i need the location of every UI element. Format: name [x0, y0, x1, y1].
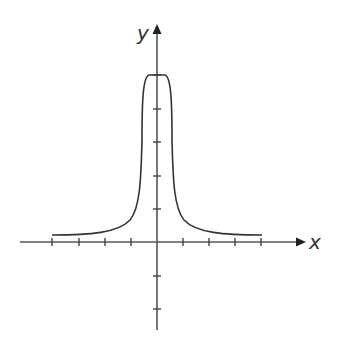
- x-axis-arrow-icon: [296, 238, 306, 247]
- y-axis-label: y: [136, 21, 150, 45]
- x-axis-label: x: [308, 230, 321, 254]
- chart: y x: [0, 0, 340, 347]
- y-axis-arrow-icon: [153, 24, 162, 34]
